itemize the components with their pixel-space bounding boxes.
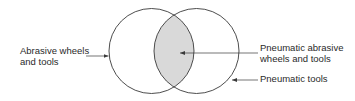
intersection-label-line-1: Pneumatic abrasive [260, 43, 343, 54]
left-set-label-line-2: and tools [20, 57, 89, 68]
left-set-label: Abrasive wheels and tools [20, 46, 89, 67]
right-set-label-line-1: Pneumatic tools [260, 74, 328, 85]
left-set-label-line-1: Abrasive wheels [20, 46, 89, 57]
intersection-label: Pneumatic abrasive wheels and tools [260, 43, 343, 64]
right-set-label: Pneumatic tools [260, 74, 328, 85]
intersection-label-line-2: wheels and tools [260, 54, 343, 65]
